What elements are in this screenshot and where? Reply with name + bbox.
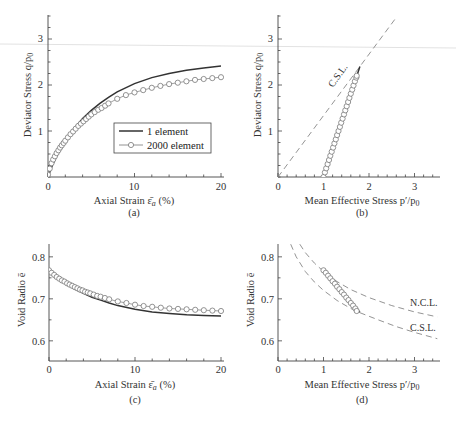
circle-marker-icon (167, 82, 172, 87)
panel-a-caption: (a) (128, 207, 140, 219)
circle-marker-icon (132, 302, 137, 307)
panel-c-xtick-0: 0 (46, 364, 51, 375)
circle-marker-icon (149, 85, 154, 90)
panel-c-ylabel: Void Radio ē (16, 272, 27, 327)
panel-a-ytick-1: 1 (38, 126, 43, 137)
circle-marker-icon (201, 308, 206, 313)
circle-marker-icon (107, 297, 112, 302)
panel-d-csl-label: C.S.L. (410, 322, 436, 333)
panel-a-xtick-10: 10 (129, 181, 140, 192)
circle-marker-icon (210, 76, 215, 81)
circle-marker-icon (175, 80, 180, 85)
circle-marker-icon (354, 308, 359, 313)
circle-marker-icon (158, 305, 163, 310)
panel-a-ytick-2: 2 (38, 79, 43, 90)
panel-d-ytick-07: 0.7 (261, 294, 274, 305)
panel-c-xtick-20: 20 (216, 364, 227, 375)
panel-a-xtick-0: 0 (45, 181, 50, 192)
circle-marker-icon (218, 75, 223, 80)
panel-b-xtick-2: 2 (366, 181, 371, 192)
panel-b-ytick-2: 2 (268, 79, 273, 90)
panel-d-ncl-label: N.C.L. (410, 297, 438, 308)
panel-d-xlabel: Mean Effective Stress p′/p0 (305, 379, 420, 392)
figure: 0 10 20 1 2 3 Axial Strain ε̄a (%) Devia… (0, 0, 456, 425)
circle-marker-icon (45, 172, 50, 177)
circle-marker-icon (210, 308, 215, 313)
panel-b-xtick-0: 0 (275, 181, 280, 192)
panel-b-ytick-3: 3 (268, 33, 273, 44)
circle-marker-icon (141, 88, 146, 93)
circle-marker-icon (115, 299, 120, 304)
panel-c-void-strain: 0 10 20 0.6 0.7 0.8 Axial Strain ε̄a (%)… (16, 244, 226, 406)
panel-d-caption: (d) (356, 394, 369, 406)
panel-b-xtick-1: 1 (321, 181, 326, 192)
circle-marker-icon (354, 73, 359, 78)
circle-marker-icon (115, 96, 120, 101)
circle-marker-icon (201, 76, 206, 81)
panel-d-void-pressure: 0 1 2 3 0.6 0.7 0.8 Mean Effective Stres… (245, 244, 440, 406)
panel-b-caption: (b) (356, 207, 369, 219)
panel-a-xtick-20: 20 (216, 181, 227, 192)
circle-marker-icon (124, 300, 129, 305)
circle-marker-icon (167, 306, 172, 311)
panel-d-xtick-3: 3 (412, 364, 417, 375)
panel-c-caption: (c) (129, 394, 141, 406)
circle-marker-icon (175, 306, 180, 311)
circle-marker-icon (158, 83, 163, 88)
panel-d-xtick-1: 1 (321, 364, 326, 375)
circle-marker-icon (218, 308, 223, 313)
circle-marker-icon (193, 307, 198, 312)
panel-b-ytick-1: 1 (268, 126, 273, 137)
panel-c-xtick-10: 10 (130, 364, 141, 375)
circle-marker-icon (123, 93, 128, 98)
panel-d-xtick-2: 2 (366, 364, 371, 375)
legend-2000-element: 2000 element (147, 140, 204, 151)
panel-c-ytick-06: 0.6 (32, 336, 45, 347)
panel-b-ylabel: Deviator Stress q/p0 (252, 53, 265, 138)
panel-b-stress-path: 0 1 2 3 1 2 3 Mean Effective Stress p′/p… (252, 15, 440, 219)
panel-b-xtick-3: 3 (412, 181, 417, 192)
panel-d-ytick-08: 0.8 (261, 252, 274, 263)
panel-a-legend: 1 element 2000 element (114, 123, 211, 153)
circle-marker-icon (192, 77, 197, 82)
legend-circle-marker-icon (128, 142, 133, 147)
panel-a-ytick-3: 3 (38, 33, 43, 44)
circle-marker-icon (106, 101, 111, 106)
scan-artifact-line (0, 44, 456, 48)
circle-marker-icon (132, 90, 137, 95)
legend-1-element: 1 element (147, 126, 188, 137)
panel-d-ylabel: Void Radio ē (245, 272, 256, 327)
panel-c-xlabel: Axial Strain ε̄a (%) (95, 379, 176, 392)
circle-marker-icon (141, 303, 146, 308)
series-c-s-l- (278, 17, 396, 177)
panel-d-xtick-0: 0 (275, 364, 280, 375)
panel-c-ytick-08: 0.8 (32, 252, 45, 263)
panel-a-ylabel: Deviator Stress q/p0 (22, 53, 35, 138)
circle-marker-icon (150, 304, 155, 309)
circle-marker-icon (184, 79, 189, 84)
panel-d-ytick-06: 0.6 (261, 336, 274, 347)
panel-c-ytick-07: 0.7 (32, 294, 45, 305)
circle-marker-icon (184, 307, 189, 312)
